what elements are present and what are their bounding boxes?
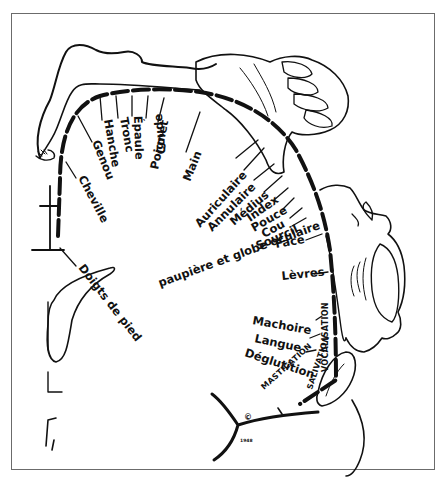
copyright-symbol: ©	[244, 413, 252, 422]
hand-drawing	[196, 54, 348, 173]
genital-intestine-drawings	[32, 186, 115, 450]
copyright-year: 1948	[240, 438, 253, 443]
label-epaule: Épaule	[131, 116, 148, 160]
label-poignet: Poignet	[147, 118, 171, 170]
label-main: Main	[180, 149, 205, 183]
homunculus-diagram: © 1948 Doigts de pied Cheville Genou Han…	[0, 0, 446, 483]
body-part-labels: Doigts de pied Cheville Genou Hanche Tro…	[75, 113, 325, 381]
label-levres: Lèvres	[281, 265, 325, 283]
pharynx-drawing: © 1948	[212, 394, 364, 476]
